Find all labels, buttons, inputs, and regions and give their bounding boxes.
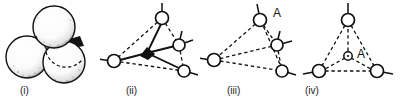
panel-tetrahedron-filled-centre: (ii) [100, 0, 200, 102]
atom-label-a-iv: A [357, 47, 365, 61]
interstitial-site-a-dot [347, 55, 349, 57]
dashed-bond-left-right [214, 45, 277, 60]
atom-group-iii [200, 4, 296, 77]
solid-bond-group-ii [120, 22, 181, 69]
dashed-edge-top-bottomleft [319, 20, 348, 71]
dashed-bond-group-iv [319, 20, 377, 71]
atom-left-stub [100, 59, 108, 61]
atom-top-labelled-a [254, 14, 267, 27]
dashed-bond-top-left [214, 20, 260, 60]
panel-caption-ii: (ii) [126, 86, 137, 96]
atom-bottom-right [371, 65, 384, 78]
atom-right-stub-a [283, 41, 292, 44]
sphere-packing-drawing [0, 0, 100, 102]
center-atom-filled [140, 47, 155, 60]
panel-sphere-packing: (i) [0, 0, 100, 102]
atom-right-stub-b [278, 31, 280, 39]
dashed-bond-centre-bottomleft [325, 58, 345, 69]
dashed-bond-left-bottomright [214, 60, 282, 71]
panel-caption-iv: (iv) [305, 86, 319, 96]
panel-triangle-centre-a: A (iv) [300, 0, 404, 102]
atom-left [208, 54, 221, 67]
tetrahedron-iii-drawing: A [200, 0, 300, 102]
atom-label-a-iii: A [273, 6, 281, 20]
atom-top [156, 12, 169, 25]
atom-bottom-right-stub [288, 73, 296, 76]
panel-caption-iii: (iii) [227, 86, 240, 96]
solid-bond-centre-top [147, 22, 162, 53]
atom-bottom-right-stub [383, 72, 393, 74]
atom-bottom-right-stub [190, 73, 198, 76]
atom-right-stub-b [180, 31, 182, 39]
atom-bottom-right [178, 65, 190, 77]
atom-right-stub-a [185, 40, 194, 43]
atom-group-ii [100, 3, 198, 77]
panel-caption-i: (i) [20, 86, 29, 96]
atom-left [108, 55, 121, 68]
atom-bottom-left [313, 65, 326, 78]
panel-tetrahedron-apex-a: A (iii) [200, 0, 300, 102]
atom-right [173, 39, 185, 51]
atom-bottom-right [276, 65, 288, 77]
atom-top-stub [257, 4, 259, 14]
atom-bottom-left-stub [303, 72, 313, 74]
tetrahedron-ii-drawing [100, 0, 200, 102]
atom-left-stub [200, 58, 208, 60]
atom-group-iv [303, 3, 393, 78]
dashed-edge-top-bottomright [348, 20, 377, 71]
interstitial-site-a [344, 52, 352, 60]
atom-top [342, 14, 355, 27]
figure-container: (i) [0, 0, 404, 102]
atom-right [271, 39, 283, 51]
